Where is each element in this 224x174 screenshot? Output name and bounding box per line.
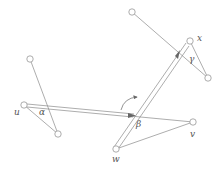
double-edge-w-x xyxy=(114,43,189,149)
node-w[interactable] xyxy=(113,146,119,152)
node-alpha-bottom[interactable] xyxy=(55,131,61,137)
label-u: u xyxy=(14,107,20,117)
label-v: v xyxy=(190,129,195,139)
label-beta: β xyxy=(135,119,141,129)
label-w: w xyxy=(112,154,120,164)
node-u[interactable] xyxy=(21,102,27,108)
rotation-arrow-icon xyxy=(121,97,137,110)
label-x: x xyxy=(197,33,202,43)
graph-diagram: u v w x α β γ xyxy=(0,0,224,174)
node-gamma-top[interactable] xyxy=(129,9,135,15)
node-x[interactable] xyxy=(187,38,193,44)
edge-gtop-gright xyxy=(132,12,208,78)
node-alpha-top[interactable] xyxy=(27,56,33,62)
label-alpha: α xyxy=(39,107,45,117)
label-gamma: γ xyxy=(189,54,195,64)
node-v[interactable] xyxy=(190,119,196,125)
edge-atop-abot xyxy=(30,59,58,134)
node-gamma-right[interactable] xyxy=(205,75,211,81)
